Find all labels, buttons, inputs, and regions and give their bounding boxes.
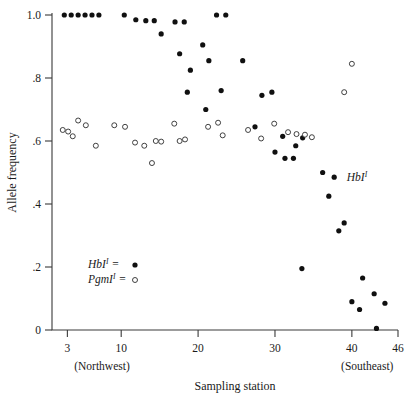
data-point-HbI-24 — [269, 90, 274, 95]
y-axis-ticks: 0.2.4.6.81.0 — [27, 9, 52, 336]
data-point-HbI-8 — [143, 18, 148, 23]
data-point-PgmI-4 — [83, 123, 88, 128]
legend-label-HbI: HbII= — [87, 257, 119, 270]
y-tick-label-.6: .6 — [32, 135, 41, 147]
data-point-HbI-38 — [360, 275, 365, 280]
x-axis-ticks: 31020304046 — [65, 330, 404, 354]
legend-marker-PgmI — [133, 278, 138, 283]
data-point-HbI-37 — [299, 266, 304, 271]
data-point-HbI-36 — [342, 220, 347, 225]
data-point-HbI-2 — [76, 12, 81, 17]
data-point-HbI-42 — [382, 301, 387, 306]
data-point-HbI-1 — [69, 12, 74, 17]
data-point-PgmI-27 — [349, 61, 354, 66]
data-point-PgmI-19 — [246, 127, 251, 132]
data-point-PgmI-3 — [76, 118, 81, 123]
data-point-HbI-25 — [252, 124, 257, 129]
data-point-HbI-5 — [96, 12, 101, 17]
y-tick-label-1.0: 1.0 — [27, 9, 42, 21]
x-tick-label-20: 20 — [192, 342, 204, 354]
data-point-HbI-29 — [291, 156, 296, 161]
legend: HbII=PgmII= — [87, 257, 138, 286]
y-tick-label-.8: .8 — [32, 72, 41, 84]
data-point-PgmI-15 — [183, 137, 188, 142]
x-tick-label-40: 40 — [346, 342, 358, 354]
figure-container: 0.2.4.6.81.031020304046(Northwest)(South… — [0, 0, 415, 395]
data-point-PgmI-21 — [272, 121, 277, 126]
data-point-HbI-23 — [259, 93, 264, 98]
data-point-PgmI-12 — [149, 161, 154, 166]
data-point-HbI-22 — [240, 58, 245, 63]
data-point-HbI-7 — [133, 17, 138, 22]
y-tick-label-.2: .2 — [32, 261, 41, 273]
data-point-HbI-9 — [152, 18, 157, 23]
x-label-southeast: (Southeast) — [341, 360, 394, 373]
data-point-PgmI-10 — [153, 139, 158, 144]
data-point-PgmI-16 — [206, 124, 211, 129]
data-point-HbI-16 — [200, 42, 205, 47]
data-point-HbI-13 — [177, 51, 182, 56]
data-point-HbI-19 — [223, 12, 228, 17]
y-tick-label-0: 0 — [35, 324, 41, 336]
data-point-PgmI-5 — [93, 143, 98, 148]
x-tick-label-10: 10 — [115, 342, 127, 354]
data-point-HbI-32 — [320, 170, 325, 175]
data-point-HbI-18 — [214, 12, 219, 17]
x-tick-label-30: 30 — [269, 342, 281, 354]
data-point-PgmI-14 — [177, 139, 182, 144]
data-point-HbI-35 — [336, 228, 341, 233]
data-point-PgmI-2 — [70, 134, 75, 139]
data-point-PgmI-26 — [342, 90, 347, 95]
data-point-PgmI-13 — [172, 121, 177, 126]
data-point-HbI-27 — [272, 149, 277, 154]
data-point-HbI-26 — [280, 134, 285, 139]
data-point-HbI-6 — [122, 12, 127, 17]
x-axis-title: Sampling station — [195, 379, 276, 393]
data-point-PgmI-22 — [286, 130, 291, 135]
data-point-PgmI-6 — [112, 123, 117, 128]
x-label-northwest: (Northwest) — [74, 360, 130, 373]
y-tick-label-.4: .4 — [32, 198, 41, 210]
data-point-HbI-0 — [62, 12, 67, 17]
y-axis-title: Allele frequency — [5, 132, 19, 212]
direction-labels: (Northwest)(Southeast) — [74, 360, 393, 373]
data-point-PgmI-7 — [123, 124, 128, 129]
data-point-PgmI-0 — [60, 127, 65, 132]
data-point-HbI-40 — [349, 299, 354, 304]
data-point-PgmI-8 — [133, 140, 138, 145]
data-point-HbI-43 — [374, 326, 379, 331]
data-point-HbI-21 — [219, 88, 224, 93]
data-point-HbI-33 — [332, 175, 337, 180]
data-point-HbI-11 — [172, 19, 177, 24]
x-tick-label-3: 3 — [65, 342, 71, 354]
data-point-PgmI-9 — [142, 143, 147, 148]
data-point-HbI-39 — [372, 291, 377, 296]
scatter-plot: 0.2.4.6.81.031020304046(Northwest)(South… — [0, 0, 415, 395]
data-point-PgmI-25 — [309, 135, 314, 140]
data-point-HbI-10 — [159, 31, 164, 36]
data-point-HbI-28 — [282, 156, 287, 161]
legend-marker-HbI — [132, 262, 137, 267]
x-tick-label-46: 46 — [392, 342, 404, 354]
data-point-HbI-3 — [82, 12, 87, 17]
data-point-PgmI-17 — [216, 120, 221, 125]
data-point-PgmI-20 — [259, 136, 264, 141]
data-point-HbI-34 — [326, 194, 331, 199]
annotation-HbI: HbII — [346, 170, 368, 183]
data-point-HbI-4 — [89, 12, 94, 17]
data-point-HbI-20 — [203, 107, 208, 112]
data-point-HbI-17 — [206, 58, 211, 63]
data-point-HbI-30 — [293, 143, 298, 148]
data-point-HbI-12 — [182, 19, 187, 24]
data-point-PgmI-1 — [66, 129, 71, 134]
data-point-PgmI-11 — [159, 139, 164, 144]
data-point-HbI-41 — [357, 307, 362, 312]
data-point-HbI-14 — [188, 68, 193, 73]
data-point-PgmI-24 — [302, 132, 307, 137]
data-point-PgmI-18 — [220, 133, 225, 138]
data-point-HbI-15 — [185, 90, 190, 95]
legend-label-PgmI: PgmII= — [87, 272, 126, 286]
series-PgmI — [60, 61, 354, 165]
data-point-PgmI-23 — [294, 132, 299, 137]
